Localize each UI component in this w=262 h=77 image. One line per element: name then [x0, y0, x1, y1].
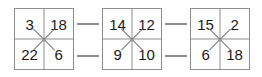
number-grid-3: 15 2 6 18	[190, 8, 250, 70]
connector-top-left	[77, 23, 99, 25]
connector-top-right	[165, 23, 187, 25]
grid-2-cell-bottom-left: 9	[103, 39, 132, 69]
grid-1-cell-top-left: 3	[15, 9, 44, 39]
grid-1-value-top-right: 18	[50, 17, 66, 32]
grid-2-value-bottom-right: 10	[138, 47, 154, 62]
grid-2-cell-bottom-right: 10	[132, 39, 161, 69]
grid-3-value-bottom-left: 6	[201, 47, 209, 62]
grid-1-value-bottom-left: 22	[21, 47, 37, 62]
number-grid-1: 3 18 22 6	[14, 8, 74, 70]
number-grid-figure: 3 18 22 6 14 12 9	[0, 0, 262, 77]
grid-1-cell-top-right: 18	[44, 9, 73, 39]
grid-3-cell-bottom-left: 6	[191, 39, 220, 69]
connector-bottom-right	[165, 55, 187, 57]
grid-2-value-top-left: 14	[109, 17, 125, 32]
grid-2-cell-top-left: 14	[103, 9, 132, 39]
grid-3-value-top-left: 15	[197, 17, 213, 32]
grid-3-cell-bottom-right: 18	[220, 39, 249, 69]
grid-1-cell-bottom-left: 22	[15, 39, 44, 69]
grid-1-value-top-left: 3	[25, 17, 33, 32]
grid-3-cell-top-right: 2	[220, 9, 249, 39]
grid-3-cell-top-left: 15	[191, 9, 220, 39]
grid-3-value-bottom-right: 18	[226, 47, 242, 62]
connector-bottom-left	[77, 55, 99, 57]
grid-3-value-top-right: 2	[230, 17, 238, 32]
grid-2-value-top-right: 12	[138, 17, 154, 32]
grid-2-cell-top-right: 12	[132, 9, 161, 39]
grid-1-cell-bottom-right: 6	[44, 39, 73, 69]
grid-1-value-bottom-right: 6	[54, 47, 62, 62]
grid-2-value-bottom-left: 9	[113, 47, 121, 62]
number-grid-2: 14 12 9 10	[102, 8, 162, 70]
